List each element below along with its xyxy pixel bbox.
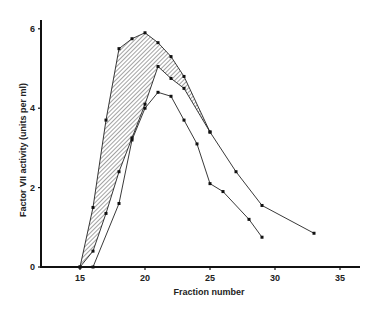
data-point <box>105 212 108 215</box>
data-point <box>118 170 121 173</box>
data-point <box>183 87 186 90</box>
data-point <box>131 138 134 141</box>
data-point <box>157 41 160 44</box>
data-point <box>131 37 134 40</box>
data-point <box>118 47 121 50</box>
data-point <box>222 190 225 193</box>
data-point <box>144 103 147 106</box>
data-point <box>261 204 264 207</box>
tick-labels: 15202530350246 <box>30 24 345 283</box>
x-tick-label: 25 <box>205 273 215 283</box>
data-point <box>170 95 173 98</box>
data-point <box>313 232 316 235</box>
x-tick-label: 35 <box>335 273 345 283</box>
data-point <box>144 31 147 34</box>
x-tick-label: 15 <box>75 273 85 283</box>
y-tick-label: 0 <box>30 262 35 272</box>
data-point <box>157 91 160 94</box>
x-tick-label: 20 <box>140 273 150 283</box>
data-point <box>209 131 212 134</box>
data-point <box>209 182 212 185</box>
data-point <box>170 77 173 80</box>
data-point <box>92 250 95 253</box>
data-point <box>144 107 147 110</box>
data-point <box>183 119 186 122</box>
y-tick-label: 4 <box>30 103 35 113</box>
data-point <box>248 218 251 221</box>
data-point <box>261 236 264 239</box>
data-point <box>170 55 173 58</box>
chart: 15202530350246 Fraction number Factor VI… <box>0 0 376 310</box>
data-point <box>157 65 160 68</box>
x-tick-label: 30 <box>270 273 280 283</box>
data-point <box>92 206 95 209</box>
data-point <box>105 119 108 122</box>
data-point <box>183 75 186 78</box>
x-axis-label: Fraction number <box>173 287 245 297</box>
data-point <box>235 170 238 173</box>
y-axis-label: Factor VII activity (units per ml) <box>18 83 28 217</box>
data-point <box>118 202 121 205</box>
y-tick-label: 6 <box>30 24 35 34</box>
data-point <box>196 142 199 145</box>
y-tick-label: 2 <box>30 183 35 193</box>
